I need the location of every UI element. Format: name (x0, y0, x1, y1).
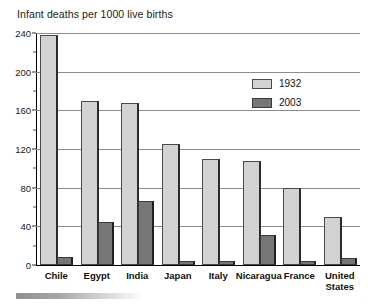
bar-1932 (202, 159, 220, 265)
gridline (36, 33, 360, 34)
chart-title: Infant deaths per 1000 live births (17, 8, 173, 20)
y-tick-label: 160 (15, 105, 31, 116)
plot-area (36, 33, 360, 265)
bar-1932 (324, 217, 342, 265)
bar-2003 (260, 235, 276, 265)
legend-swatch-1932-icon (252, 79, 272, 89)
bar-1932 (121, 103, 139, 265)
y-tick-label: 200 (15, 66, 31, 77)
legend-item: 1932 (252, 76, 326, 91)
bar-2003 (219, 261, 235, 265)
bar-1932 (40, 35, 58, 265)
y-tick-label: 40 (20, 221, 31, 232)
bar-1932 (243, 161, 261, 265)
y-axis-labels: 04080120160200240 (0, 0, 31, 306)
bar-2003 (138, 201, 154, 265)
bottom-gradient-decoration (16, 293, 144, 299)
bar-1932 (81, 101, 99, 265)
y-tick-label: 0 (26, 260, 31, 271)
bar-2003 (179, 261, 195, 265)
legend-label-1932: 1932 (279, 78, 301, 89)
legend-swatch-2003-icon (252, 98, 272, 108)
bar-1932 (283, 188, 301, 265)
y-tick-label: 240 (15, 28, 31, 39)
x-tick-label: United States (316, 270, 365, 292)
bar-1932 (162, 144, 180, 265)
gridline (36, 72, 360, 73)
axis-baseline (36, 265, 360, 266)
bar-2003 (300, 261, 316, 265)
bar-2003 (341, 258, 357, 265)
legend-label-2003: 2003 (279, 97, 301, 108)
bar-2003 (57, 257, 73, 265)
y-tick-label: 80 (20, 182, 31, 193)
bar-2003 (98, 222, 114, 266)
y-tick-label: 120 (15, 144, 31, 155)
chart-legend: 1932 2003 (252, 76, 326, 114)
legend-item: 2003 (252, 95, 326, 110)
bar-chart: Infant deaths per 1000 live births 04080… (0, 0, 373, 306)
